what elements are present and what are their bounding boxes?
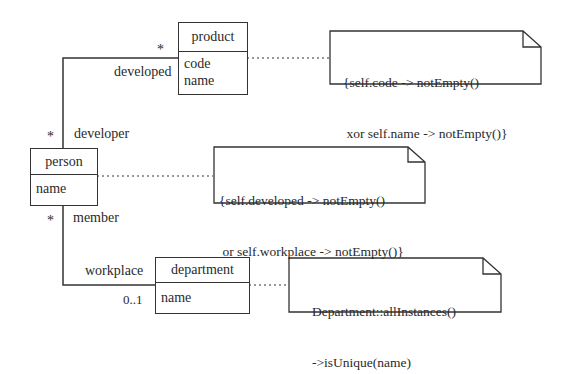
role-workplace: workplace	[85, 263, 143, 279]
attr-name: name	[184, 72, 247, 89]
class-product[interactable]: product code name	[178, 22, 248, 95]
note-line: ->isUnique(name)	[312, 354, 456, 371]
multiplicity-workplace: 0..1	[123, 292, 143, 308]
attr-code: code	[184, 55, 247, 72]
note-line: xor self.name -> notEmpty()}	[343, 125, 507, 142]
note-line: {self.developed -> notEmpty()	[219, 192, 404, 209]
note-person-constraint: {self.developed -> notEmpty() or self.wo…	[219, 158, 404, 277]
role-developer: developer	[74, 126, 129, 142]
note-line: or self.workplace -> notEmpty()}	[219, 243, 404, 260]
class-product-attributes: code name	[179, 52, 247, 89]
note-department-constraint: Department::allInstances() ->isUnique(na…	[312, 269, 456, 374]
class-person[interactable]: person name	[30, 148, 98, 206]
attr-name: name	[161, 289, 249, 306]
multiplicity-developer: *	[47, 129, 54, 145]
multiplicity-developed: *	[157, 42, 164, 58]
class-person-title: person	[31, 149, 97, 175]
role-member: member	[73, 210, 119, 226]
attr-name: name	[36, 180, 97, 197]
note-line: {self.code -> notEmpty()	[343, 74, 507, 91]
role-developed: developed	[114, 64, 172, 80]
note-line: Department::allInstances()	[312, 303, 456, 320]
class-department-attributes: name	[156, 283, 249, 306]
class-person-attributes: name	[31, 175, 97, 197]
multiplicity-member: *	[47, 213, 54, 229]
note-product-constraint: {self.code -> notEmpty() xor self.name -…	[343, 40, 507, 159]
class-product-title: product	[179, 23, 247, 52]
